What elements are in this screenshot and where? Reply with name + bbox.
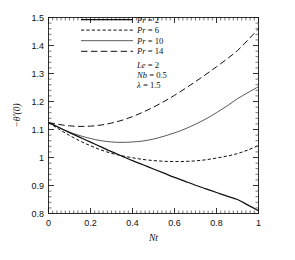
- legend-label-0: Pr = 2: [136, 15, 159, 25]
- legend-label-2: Pr = 10: [136, 36, 163, 46]
- x-tick-label: 0.4: [126, 218, 139, 228]
- x-tick-label: 0: [46, 218, 51, 228]
- x-tick-label: 0.2: [84, 218, 97, 228]
- x-axis-title: Nt: [148, 233, 158, 243]
- y-tick-label: 0.9: [31, 181, 44, 191]
- parameter-annotations: Le = 2Nb = 0.5λ = 1.5: [136, 60, 167, 90]
- x-tick-label: 1: [256, 218, 261, 228]
- annotation-1: Nb = 0.5: [136, 70, 167, 80]
- y-tick-label: 1.2: [31, 97, 44, 107]
- y-tick-label: 1.5: [31, 13, 44, 23]
- y-axis-title: −θ′(0): [12, 103, 23, 127]
- y-tick-label: 1.4: [31, 41, 44, 51]
- annotation-0: Le = 2: [136, 60, 159, 70]
- figure-container: 0.80.911.11.21.31.41.500.20.40.60.81Nt−θ…: [0, 0, 295, 260]
- x-tick-label: 0.6: [168, 218, 181, 228]
- legend: Pr = 2Pr = 6Pr = 10Pr = 14: [81, 15, 164, 57]
- curve-series-2: [49, 87, 259, 143]
- y-tick-label: 1.3: [31, 69, 44, 79]
- y-tick-label: 1.1: [31, 125, 44, 135]
- annotation-2: λ = 1.5: [136, 80, 161, 90]
- legend-label-3: Pr = 14: [136, 46, 164, 56]
- legend-label-1: Pr = 6: [136, 25, 160, 35]
- y-tick-label: 0.8: [31, 209, 44, 219]
- curve-series-1: [49, 123, 259, 162]
- line-chart: 0.80.911.11.21.31.41.500.20.40.60.81Nt−θ…: [0, 0, 295, 260]
- y-tick-label: 1: [39, 153, 44, 163]
- x-tick-label: 0.8: [210, 218, 223, 228]
